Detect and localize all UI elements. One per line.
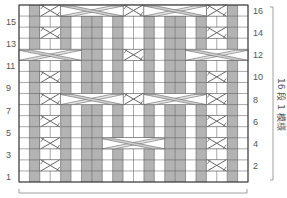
row-label-right: 10 xyxy=(253,72,263,82)
row-label-right: 12 xyxy=(253,50,263,60)
row-label-right: 6 xyxy=(253,117,258,127)
row-label-left: 9 xyxy=(6,83,11,93)
row-label-left: 1 xyxy=(6,172,11,182)
repeat-label: 16 段 1 模様 xyxy=(276,78,287,131)
row-label-right: 16 xyxy=(253,6,263,16)
knitting-chart: 1357911131524681012141616 段 1 模様 xyxy=(0,0,287,198)
row-label-right: 8 xyxy=(253,95,258,105)
row-label-left: 11 xyxy=(6,61,15,71)
row-label-left: 5 xyxy=(6,128,11,138)
row-label-left: 13 xyxy=(6,39,16,49)
row-label-right: 14 xyxy=(253,28,263,38)
row-label-left: 15 xyxy=(6,17,16,27)
row-label-left: 7 xyxy=(6,106,11,116)
repeat-bracket-vertical xyxy=(270,7,273,180)
repeat-bracket-horizontal xyxy=(19,189,247,193)
row-label-right: 4 xyxy=(253,139,258,149)
row-label-left: 3 xyxy=(6,150,11,160)
row-label-right: 2 xyxy=(253,161,258,171)
